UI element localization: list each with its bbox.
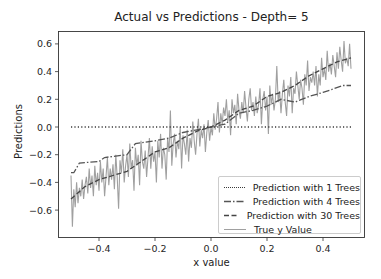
y-tick-label: 0.6	[37, 38, 52, 49]
y-tick-label: 0.0	[37, 122, 52, 133]
solid-line-swatch-icon	[224, 229, 246, 230]
legend-label: Prediction with 30 Trees	[247, 210, 360, 221]
legend-item-1-tree: Prediction with 1 Trees	[219, 180, 360, 194]
x-tick-label: 0.2	[259, 243, 274, 254]
y-tick-label: −0.4	[29, 177, 52, 188]
x-tick-label: −0.2	[143, 243, 166, 254]
x-tick-label: 0.0	[203, 243, 218, 254]
legend-item-true-value: True y Value	[219, 222, 360, 236]
y-tick-label: −0.2	[29, 149, 52, 160]
legend-label: True y Value	[254, 224, 312, 235]
x-axis-label: x value	[58, 257, 365, 268]
dashdot-line-swatch-icon	[224, 200, 245, 203]
legend-item-4-trees: Prediction with 4 Trees	[219, 194, 360, 208]
legend-label: Prediction with 1 Trees	[253, 182, 360, 193]
y-tick-label: 0.2	[37, 94, 52, 105]
chart-plot-area: −0.4−0.20.00.20.4 0.60.40.20.0−0.2−0.4−0…	[0, 0, 381, 279]
y-axis-label: Predictions	[13, 92, 24, 172]
x-axis: −0.4−0.20.00.20.4	[87, 238, 330, 255]
x-tick-label: 0.4	[315, 243, 330, 254]
legend-label: Prediction with 4 Trees	[253, 196, 360, 207]
y-tick-label: 0.4	[37, 66, 52, 77]
dotted-line-swatch-icon	[224, 187, 245, 188]
dashed-line-swatch-icon	[224, 214, 239, 217]
y-tick-label: −0.6	[29, 205, 52, 216]
legend-item-30-trees: Prediction with 30 Trees	[219, 208, 360, 222]
x-tick-label: −0.4	[87, 243, 110, 254]
y-axis: 0.60.40.20.0−0.2−0.4−0.6	[29, 38, 59, 215]
legend: Prediction with 1 Trees Prediction with …	[218, 176, 361, 234]
